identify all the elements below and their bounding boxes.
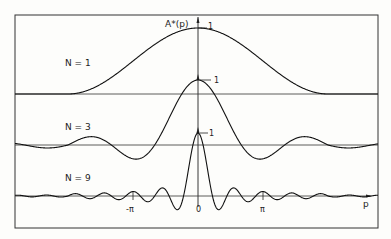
y-axis-arrow-icon <box>197 74 200 80</box>
y-axis-label: A*(p) <box>165 19 188 29</box>
series-label-n1: N = 1 <box>65 58 91 68</box>
y-axis-arrow-icon <box>197 17 200 23</box>
curve-n3 <box>15 80 378 159</box>
series-label-n3: N = 3 <box>65 122 91 132</box>
tick-label-neg-pi: -π <box>126 205 134 214</box>
peak-label-n3: 1 <box>214 76 219 85</box>
peak-label-n1: 1 <box>208 22 213 31</box>
peak-label-n9: 1 <box>209 129 214 138</box>
tick-label-pi: π <box>260 205 265 214</box>
figure: 1 1 1 A*(p) p N = 1 N = 3 N = 9 -π 0 π <box>0 0 391 239</box>
x-axis-label: p <box>363 199 369 209</box>
y-axis-arrow-icon <box>197 127 200 133</box>
series-label-n9: N = 9 <box>65 173 91 183</box>
tick-label-zero: 0 <box>196 205 201 214</box>
